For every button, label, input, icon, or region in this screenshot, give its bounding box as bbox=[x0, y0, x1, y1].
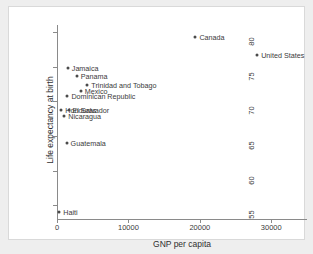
x-axis-title: GNP per capita bbox=[57, 239, 307, 249]
data-point-marker[interactable] bbox=[60, 108, 63, 111]
y-tick-label: 80 bbox=[247, 31, 256, 51]
data-point-marker[interactable] bbox=[63, 114, 66, 117]
data-point-label: Canada bbox=[199, 33, 224, 42]
x-tick-label: 30000 bbox=[261, 223, 282, 232]
data-point-label: Dominican Republic bbox=[71, 92, 135, 101]
data-point-label: Nicaragua bbox=[68, 111, 101, 120]
data-point-label: Guatemala bbox=[71, 139, 106, 148]
scatter-plot-figure: 556065707580 0100002000030000 CanadaUnit… bbox=[0, 0, 313, 254]
data-point-marker[interactable] bbox=[75, 75, 78, 78]
data-point-marker[interactable] bbox=[66, 66, 69, 69]
data-point-label: Panama bbox=[81, 72, 108, 81]
x-tick-label: 0 bbox=[55, 223, 59, 232]
x-axis-line bbox=[57, 219, 307, 220]
plot-area: 556065707580 0100002000030000 CanadaUnit… bbox=[57, 25, 307, 219]
y-axis-title: Life expectancy at birth bbox=[45, 23, 55, 217]
data-point-label: Haiti bbox=[63, 208, 77, 217]
y-tick-label: 55 bbox=[247, 205, 256, 225]
x-tick-label: 20000 bbox=[189, 223, 210, 232]
y-tick-label: 75 bbox=[247, 66, 256, 86]
y-tick-label: 60 bbox=[247, 170, 256, 190]
data-point-marker[interactable] bbox=[58, 211, 61, 214]
data-point-marker[interactable] bbox=[194, 36, 197, 39]
plot-canvas: 556065707580 0100002000030000 CanadaUnit… bbox=[8, 6, 305, 240]
data-point-marker[interactable] bbox=[66, 95, 69, 98]
data-point-marker[interactable] bbox=[65, 142, 68, 145]
y-axis-line bbox=[57, 25, 58, 219]
y-tick-label: 70 bbox=[247, 101, 256, 121]
data-point-label: United States bbox=[261, 50, 304, 59]
x-tick-label: 10000 bbox=[118, 223, 139, 232]
data-point-marker[interactable] bbox=[256, 53, 259, 56]
y-tick-label: 65 bbox=[247, 135, 256, 155]
